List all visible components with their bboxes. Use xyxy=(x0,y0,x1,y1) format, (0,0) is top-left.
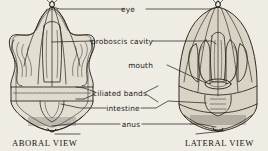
label-eye: eye xyxy=(121,5,135,14)
anatomical-figure-plate: eye proboscis cavity mouth ciliated band… xyxy=(0,0,268,151)
label-mouth: mouth xyxy=(128,61,153,70)
caption-aboral-view: ABORAL VIEW xyxy=(12,138,78,148)
label-intestine: intestine xyxy=(106,104,140,113)
label-proboscis-cavity: proboscis cavity xyxy=(91,37,154,46)
diagram-canvas: eye proboscis cavity mouth ciliated band… xyxy=(0,0,268,151)
label-anus: anus xyxy=(122,120,140,129)
label-ciliated-bands: ciliated bands xyxy=(93,89,147,98)
caption-lateral-view: LATERAL VIEW xyxy=(185,138,254,148)
